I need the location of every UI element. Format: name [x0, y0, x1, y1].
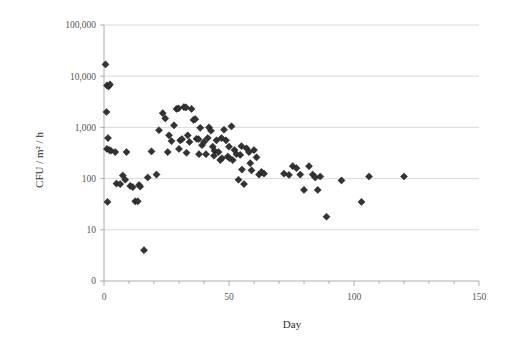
data-point	[240, 181, 247, 188]
scatter-plot: 100,00010,0001,000100100 050100150 CFU /…	[0, 0, 508, 353]
data-point	[225, 143, 232, 150]
data-point	[123, 148, 130, 155]
data-point	[102, 61, 109, 68]
x-tick-label: 100	[347, 292, 362, 302]
data-point	[195, 151, 202, 158]
y-tick-label: 10,000	[70, 72, 96, 82]
data-point	[186, 138, 193, 145]
data-point	[175, 145, 182, 152]
data-point	[235, 176, 242, 183]
data-point	[197, 124, 204, 131]
y-tick-label: 100,000	[65, 20, 96, 30]
y-tick-label: 100	[82, 174, 97, 184]
data-point	[317, 173, 324, 180]
x-axis	[104, 281, 479, 286]
x-axis-title: Day	[283, 318, 302, 330]
y-tick-label: 1,000	[75, 123, 97, 133]
data-point	[314, 186, 321, 193]
data-point	[305, 163, 312, 170]
data-point	[297, 171, 304, 178]
data-point	[253, 154, 260, 161]
data-point	[238, 166, 245, 173]
data-point	[148, 148, 155, 155]
gridlines	[104, 25, 479, 230]
y-tick-labels: 100,00010,0001,000100100	[65, 20, 96, 286]
data-point	[188, 105, 195, 112]
data-point	[183, 149, 190, 156]
chart-figure: 100,00010,0001,000100100 050100150 CFU /…	[0, 0, 508, 353]
y-tick-label: 0	[91, 276, 96, 286]
data-point	[248, 167, 255, 174]
y-axis-title: CFU / m² / h	[33, 132, 45, 188]
data-point	[338, 177, 345, 184]
data-point	[202, 151, 209, 158]
y-tick-label: 10	[87, 225, 97, 235]
data-point	[164, 148, 171, 155]
data-point	[365, 173, 372, 180]
data-point	[300, 186, 307, 193]
data-point	[104, 198, 111, 205]
data-point	[247, 160, 254, 167]
data-point	[104, 134, 111, 141]
data-point	[184, 132, 191, 139]
x-tick-labels: 050100150	[102, 292, 487, 302]
data-point	[228, 123, 235, 130]
data-point	[153, 171, 160, 178]
data-point	[140, 247, 147, 254]
data-point	[358, 198, 365, 205]
data-point	[144, 174, 151, 181]
x-tick-label: 150	[472, 292, 487, 302]
x-tick-label: 0	[102, 292, 107, 302]
data-point	[170, 122, 177, 129]
data-points	[102, 61, 408, 254]
data-point	[323, 213, 330, 220]
x-tick-label: 50	[224, 292, 234, 302]
data-point	[400, 173, 407, 180]
